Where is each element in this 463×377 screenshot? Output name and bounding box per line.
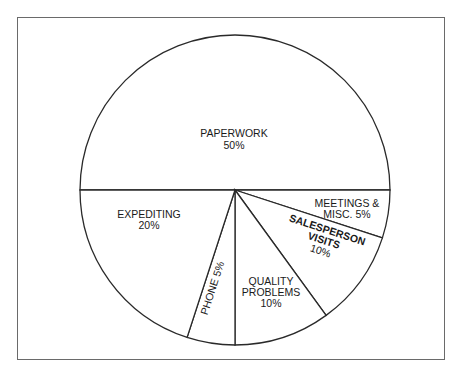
label-paperwork-value: 50% — [223, 139, 244, 151]
pie-chart: PAPERWORK 50% EXPEDITING 20% MEETINGS & … — [0, 0, 463, 377]
label-paperwork: PAPERWORK — [200, 127, 267, 139]
label-meetings-value: MISC. 5% — [323, 208, 370, 220]
label-expediting-value: 20% — [138, 219, 159, 231]
label-quality-value: 10% — [260, 297, 281, 309]
slice-paperwork — [80, 35, 390, 190]
